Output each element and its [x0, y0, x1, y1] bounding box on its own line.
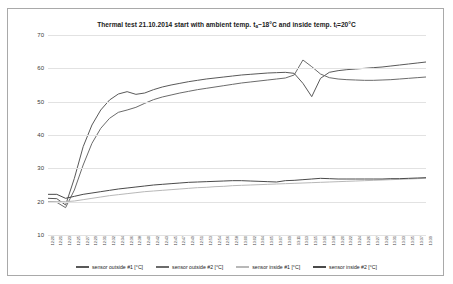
x-axis-tick-label: 13:00 — [243, 236, 248, 246]
x-axis-tick-label: 13:29 — [384, 236, 389, 246]
x-axis-tick-label: 13:22 — [348, 236, 353, 246]
x-axis-tick-label: 12:58 — [234, 236, 239, 246]
y-axis-tick-label: 40 — [37, 132, 44, 138]
x-axis-tick-label: 13:16 — [322, 236, 327, 246]
y-axis-tick-label: 10 — [37, 232, 44, 238]
gridline — [48, 68, 426, 69]
gridline — [48, 135, 426, 136]
legend-swatch — [156, 266, 169, 268]
y-axis-tick-label: 60 — [37, 65, 44, 71]
x-axis-tick-label: 13:11 — [296, 236, 301, 245]
legend-swatch — [313, 266, 326, 268]
x-axis-tick-label: 12:21 — [58, 236, 63, 246]
chart-frame: Thermal test 21.10.2014 start with ambie… — [7, 8, 444, 276]
x-axis-tick-label: 12:42 — [155, 236, 160, 246]
x-axis-tick-label: 12:51 — [199, 236, 204, 246]
x-axis-tick-label: 12:47 — [181, 236, 186, 246]
x-axis-tick-label: 12:56 — [225, 236, 230, 246]
x-axis-tick-label: 13:24 — [357, 236, 362, 246]
x-axis-tick-label: 12:32 — [111, 236, 116, 246]
x-axis-tick-label: 12:36 — [129, 236, 134, 246]
y-axis-tick-label: 70 — [37, 32, 44, 38]
x-axis-tick-label: 13:05 — [269, 236, 274, 246]
legend-label: sensor outside #1 [°C] — [92, 264, 143, 270]
x-axis-tick-label: 12:40 — [146, 236, 151, 246]
x-axis-tick-label: 12:31 — [102, 236, 107, 246]
x-axis-tick-label: 12:20 — [50, 236, 55, 246]
x-axis-tick-label: 12:29 — [93, 236, 98, 246]
x-axis-tick-label: 13:04 — [260, 236, 265, 246]
y-axis-tick-label: 20 — [37, 199, 44, 205]
x-axis-tick-label: 12:25 — [76, 236, 81, 246]
legend-item[interactable]: sensor inside #2 [°C] — [313, 264, 377, 270]
x-axis-tick-label: 13:31 — [392, 236, 397, 246]
x-axis-tick-label: 13:18 — [331, 236, 336, 246]
chart-legend: sensor outside #1 [°C]sensor outside #2 … — [8, 261, 445, 273]
gridline — [48, 102, 426, 103]
series-line — [48, 178, 426, 201]
legend-swatch — [236, 266, 249, 268]
x-axis-tick-label: 13:20 — [340, 236, 345, 246]
gridline — [48, 202, 426, 203]
legend-label: sensor inside #2 [°C] — [329, 264, 377, 270]
x-axis-tick-label: 12:53 — [208, 236, 213, 246]
legend-label: sensor outside #2 [°C] — [172, 264, 223, 270]
x-axis-tick-label: 13:15 — [313, 236, 318, 246]
gridline — [48, 35, 426, 36]
x-axis-tick-label: 12:38 — [137, 236, 142, 246]
x-axis-tick-label: 12:54 — [217, 236, 222, 246]
x-axis-tick-label: 12:27 — [85, 236, 90, 246]
x-axis-tick-label: 13:26 — [366, 236, 371, 246]
legend-item[interactable]: sensor outside #1 [°C] — [76, 264, 143, 270]
x-axis-tick-label: 12:43 — [164, 236, 169, 246]
x-axis-tick-label: 12:34 — [120, 236, 125, 246]
chart-title: Thermal test 21.10.2014 start with ambie… — [8, 21, 445, 29]
legend-swatch — [76, 266, 89, 268]
legend-label: sensor inside #1 [°C] — [252, 264, 300, 270]
x-axis-tick-label: 13:09 — [287, 236, 292, 246]
x-axis-tick-label: 13:27 — [375, 236, 380, 246]
x-axis-tick-label: 12:45 — [173, 236, 178, 246]
x-axis-tick-label: 13:39 — [428, 236, 433, 246]
y-axis-tick-label: 50 — [37, 99, 44, 105]
x-axis-tick-label: 13:37 — [419, 236, 424, 246]
title-text-after: =20°C — [337, 21, 356, 28]
x-axis-tick-label: 13:02 — [252, 236, 257, 246]
legend-item[interactable]: sensor inside #1 [°C] — [236, 264, 300, 270]
x-axis-tick-label: 13:35 — [410, 236, 415, 246]
plot-area: 70605040302010 — [48, 35, 426, 235]
title-text-mid: ~18°C and inside temp. t — [258, 21, 336, 28]
title-text-before: Thermal test 21.10.2014 start with ambie… — [97, 21, 255, 28]
plot-wrapper: 70605040302010 — [48, 35, 426, 235]
legend-item[interactable]: sensor outside #2 [°C] — [156, 264, 223, 270]
y-axis-tick-label: 30 — [37, 165, 44, 171]
x-axis-tick-label: 12:49 — [190, 236, 195, 246]
x-axis-tick-label: 13:07 — [278, 236, 283, 246]
x-axis-tick-label: 13:13 — [304, 236, 309, 246]
gridline — [48, 168, 426, 169]
x-axis-tick-label: 12:23 — [67, 236, 72, 246]
x-axis-tick-label: 13:33 — [401, 236, 406, 246]
